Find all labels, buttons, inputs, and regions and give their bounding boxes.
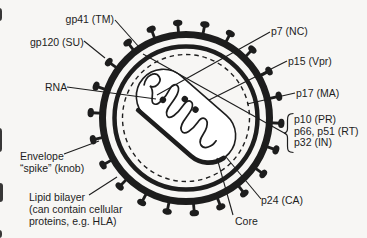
label-p17-ma: p17 (MA) — [296, 87, 339, 99]
scan-artifact — [0, 183, 3, 202]
label-envelope-spike: Envelope “spike” (knob) — [20, 150, 84, 174]
core-group — [125, 58, 246, 174]
label-core: Core — [235, 215, 258, 227]
label-p15-vpr: p15 (Vpr) — [288, 55, 332, 67]
label-enzyme-group: p10 (PR) p66, p51 (RT) p32 (IN) — [294, 114, 359, 149]
label-envelope-line2: “spike” (knob) — [20, 162, 84, 174]
label-rna: RNA — [45, 81, 67, 93]
label-lipid-line2: (can contain cellular — [29, 203, 122, 215]
label-lipid-line3: proteins, e.g. HLA) — [29, 215, 122, 227]
scan-artifact — [0, 128, 2, 152]
label-lipid-bilayer: Lipid bilayer (can contain cellular prot… — [29, 191, 122, 227]
label-envelope-line1: Envelope — [20, 150, 84, 162]
label-p10-pr: p10 (PR) — [294, 114, 359, 126]
scan-artifact — [0, 8, 2, 21]
label-gp120-su: gp120 (SU) — [30, 36, 84, 48]
label-p7-nc: p7 (NC) — [271, 25, 308, 37]
label-p32-in: p32 (IN) — [294, 137, 359, 149]
label-p24-ca: p24 (CA) — [261, 194, 303, 206]
label-gp41-tm: gp41 (TM) — [40, 13, 114, 25]
hiv-virion-diagram: gp41 (TM) gp120 (SU) RNA p7 (NC) p15 (Vp… — [0, 0, 367, 238]
label-lipid-line1: Lipid bilayer — [29, 191, 122, 203]
leader-gp120 — [84, 41, 105, 58]
enzymes-brace — [284, 114, 293, 153]
